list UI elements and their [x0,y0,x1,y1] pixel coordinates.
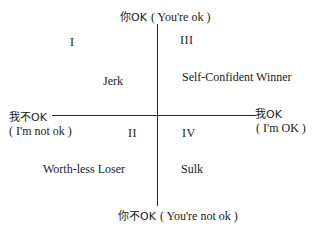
quadrant-3-numeral: III [180,33,194,48]
axis-label-top-en: ( You're ok ) [151,10,211,24]
axis-label-bottom-cn: 你不OK [118,210,156,223]
quadrant-1-label: Jerk [103,74,123,89]
axis-label-right-en: ( I'm OK ) [256,121,306,136]
horizontal-axis [52,115,256,116]
axis-label-bottom-en: ( You're not ok ) [160,209,238,223]
quadrant-1-numeral: I [70,35,75,50]
axis-label-top: 你OK ( You're ok ) [120,7,210,25]
quadrant-4-label: Sulk [181,162,203,177]
axis-label-right-cn: 我OK [255,105,282,121]
axis-label-bottom: 你不OK ( You're not ok ) [118,206,238,224]
quadrant-2-label: Worth-less Loser [43,162,125,177]
quadrant-2-numeral: II [128,126,137,141]
axis-label-top-cn: 你OK [120,11,147,24]
quadrant-4-numeral: IV [182,126,196,141]
axis-label-left-cn: 我不OK [9,108,47,124]
quadrant-3-label: Self-Confident Winner [182,70,292,85]
axis-label-left-en: ( I'm not ok ) [9,124,72,139]
